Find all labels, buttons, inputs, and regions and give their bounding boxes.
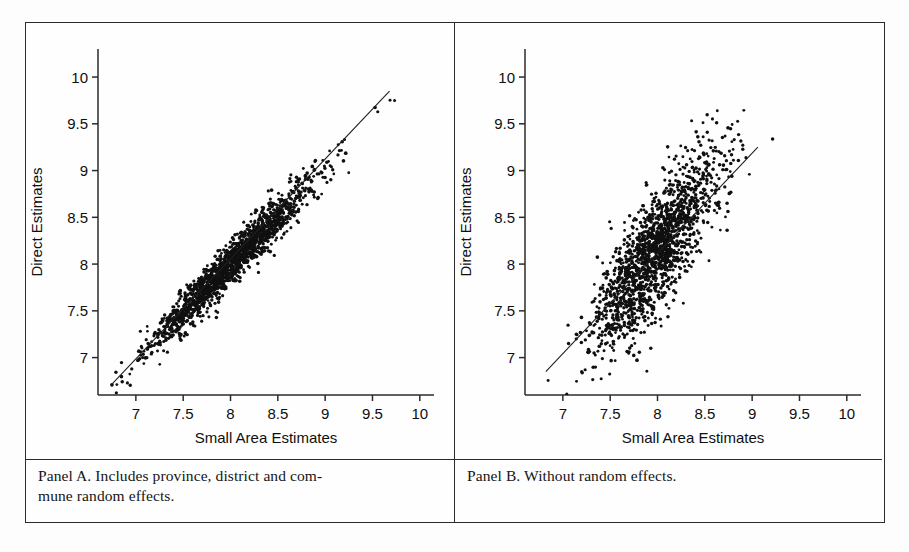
svg-text:7: 7 <box>507 349 515 366</box>
svg-text:8: 8 <box>226 405 234 422</box>
svg-text:9.5: 9.5 <box>362 405 383 422</box>
panel-b: 77.588.599.51077.588.599.510Small Area E… <box>454 23 882 522</box>
svg-text:9.5: 9.5 <box>494 115 515 132</box>
svg-text:10: 10 <box>498 69 515 86</box>
svg-text:8: 8 <box>80 256 88 273</box>
svg-text:10: 10 <box>411 405 428 422</box>
svg-text:10: 10 <box>71 69 88 86</box>
svg-text:Small Area Estimates: Small Area Estimates <box>622 429 765 446</box>
svg-text:8: 8 <box>507 256 515 273</box>
svg-text:9: 9 <box>80 162 88 179</box>
panel-a-plot-area: 77.588.599.51077.588.599.510Small Area E… <box>26 23 454 460</box>
svg-text:7.5: 7.5 <box>173 405 194 422</box>
svg-text:10: 10 <box>838 405 855 422</box>
svg-text:9: 9 <box>507 162 515 179</box>
svg-text:7.5: 7.5 <box>600 405 621 422</box>
panel-b-caption: Panel B. Without random effects. <box>467 466 872 486</box>
svg-text:9: 9 <box>321 405 329 422</box>
svg-text:7: 7 <box>559 405 567 422</box>
svg-text:8.5: 8.5 <box>494 209 515 226</box>
panel-a-caption-box: Panel A. Includes province, district and… <box>26 460 454 522</box>
svg-text:Direct Estimates: Direct Estimates <box>457 167 474 276</box>
svg-text:7.5: 7.5 <box>67 302 88 319</box>
panel-b-scatter-plot: 77.588.599.51077.588.599.510Small Area E… <box>455 23 881 460</box>
figure-container: 77.588.599.51077.588.599.510Small Area E… <box>0 0 909 552</box>
svg-text:7: 7 <box>132 405 140 422</box>
svg-text:8.5: 8.5 <box>267 405 288 422</box>
svg-text:9.5: 9.5 <box>789 405 810 422</box>
panel-a-caption: Panel A. Includes province, district and… <box>38 466 444 506</box>
panel-b-plot-area: 77.588.599.51077.588.599.510Small Area E… <box>455 23 882 460</box>
svg-text:8: 8 <box>653 405 661 422</box>
panel-a: 77.588.599.51077.588.599.510Small Area E… <box>26 23 454 522</box>
svg-text:9.5: 9.5 <box>67 115 88 132</box>
svg-text:8.5: 8.5 <box>694 405 715 422</box>
svg-text:7.5: 7.5 <box>494 302 515 319</box>
svg-text:9: 9 <box>748 405 756 422</box>
svg-text:Direct Estimates: Direct Estimates <box>28 167 45 276</box>
svg-text:7: 7 <box>80 349 88 366</box>
svg-text:Small Area Estimates: Small Area Estimates <box>195 429 338 446</box>
panel-b-caption-box: Panel B. Without random effects. <box>455 460 882 522</box>
figure-frame: 77.588.599.51077.588.599.510Small Area E… <box>25 22 885 523</box>
svg-text:8.5: 8.5 <box>67 209 88 226</box>
panel-a-scatter-plot: 77.588.599.51077.588.599.510Small Area E… <box>26 23 454 460</box>
